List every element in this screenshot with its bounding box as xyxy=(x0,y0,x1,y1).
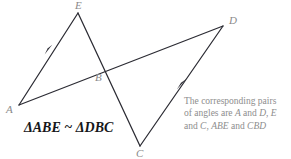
vertex-label-d: D xyxy=(229,15,237,26)
arrow-marker-on-AE-icon xyxy=(45,45,53,55)
note-line-1-text: The corresponding pairs xyxy=(184,96,276,106)
note-angle-e: E xyxy=(271,108,277,118)
note-line-1: The corresponding pairs xyxy=(184,95,290,107)
note-line-3-mid: and xyxy=(229,121,247,131)
figure-canvas: A B C D E ΔABE ~ ΔDBC The corresponding … xyxy=(0,0,291,159)
vertex-label-c: C xyxy=(136,148,143,159)
arrow-marker-on-CD-icon xyxy=(177,79,186,89)
vertex-label-b: B xyxy=(95,72,102,83)
segment-A-to-E xyxy=(19,13,78,105)
note-line-3: and C, ABE and CBD xyxy=(184,120,290,132)
note-line-3-prefix: and xyxy=(184,121,200,131)
note-line-2-prefix: of angles are xyxy=(184,108,235,118)
vertex-label-a: A xyxy=(6,104,13,115)
segment-A-to-D xyxy=(19,26,223,105)
note-angle-cbd: CBD xyxy=(247,121,266,131)
vertex-label-e: E xyxy=(75,0,82,11)
note-line-2-mid: and xyxy=(241,108,259,118)
note-line-2: of angles are A and D, E xyxy=(184,107,290,119)
note-angle-abe: ABE xyxy=(211,121,228,131)
corresponding-angles-note: The corresponding pairs of angles are A … xyxy=(184,95,290,132)
similarity-statement: ΔABE ~ ΔDBC xyxy=(24,120,113,135)
